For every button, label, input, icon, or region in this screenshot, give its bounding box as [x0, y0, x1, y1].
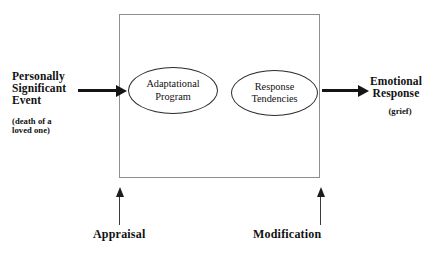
node-response-tendencies-line-2: Tendencies — [251, 93, 297, 105]
node-adaptational-program: Adaptational Program — [128, 67, 218, 114]
node-adaptational-program-line-1: Adaptational — [146, 78, 199, 90]
input-sublabel-line-2: loved one) — [12, 126, 52, 135]
input-label-line-1: Personally — [12, 70, 66, 82]
input-label-line-2: Significant — [12, 82, 66, 94]
output-label-line-1: Emotional — [370, 75, 422, 87]
node-response-tendencies-line-1: Response — [251, 81, 297, 93]
modification-arrow-icon — [320, 196, 321, 225]
diagram-canvas: Personally Significant Event (death of a… — [0, 0, 434, 262]
output-arrow-icon — [322, 89, 360, 92]
output-label-line-2: Response — [370, 87, 422, 99]
input-sublabel: (death of a loved one) — [12, 117, 52, 135]
input-label: Personally Significant Event — [12, 70, 66, 107]
appraisal-arrow-icon — [119, 196, 120, 225]
modulator-label-modification: Modification — [253, 228, 321, 241]
node-response-tendencies: Response Tendencies — [231, 70, 318, 116]
node-response-tendencies-label: Response Tendencies — [251, 81, 297, 105]
input-arrow-icon — [78, 89, 118, 92]
output-sublabel: (grief) — [370, 107, 430, 116]
input-label-line-3: Event — [12, 94, 66, 106]
output-label: Emotional Response — [370, 75, 422, 99]
modulator-label-appraisal: Appraisal — [93, 228, 145, 241]
node-adaptational-program-label: Adaptational Program — [146, 78, 199, 102]
node-adaptational-program-line-2: Program — [146, 91, 199, 103]
